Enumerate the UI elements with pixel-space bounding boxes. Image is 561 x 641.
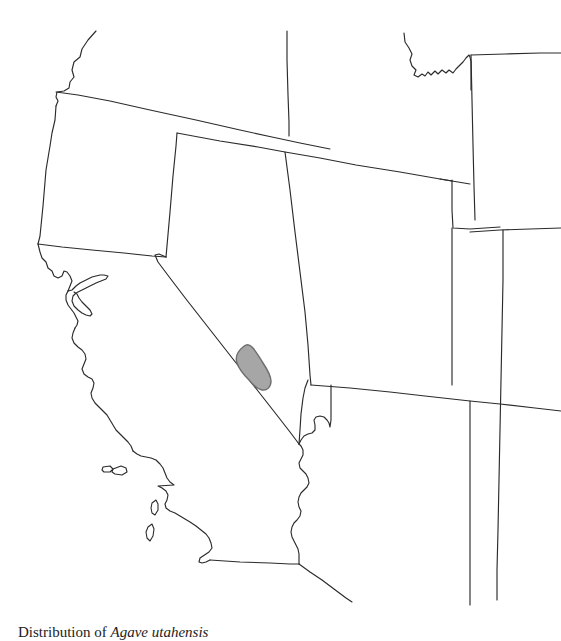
- nevada-california-border: [155, 254, 299, 444]
- caption-species-name: Agave utahensis: [111, 624, 209, 640]
- wyoming-border: [471, 53, 561, 55]
- us-mexico-border: [210, 560, 299, 564]
- idaho-nevada-utah-border: [177, 133, 470, 184]
- mexico-border-diagonal: [299, 564, 352, 602]
- california-north-coastline: [38, 244, 72, 291]
- california-south-coastline: [133, 451, 212, 563]
- colorado-newmexico-east-border: [497, 230, 503, 600]
- utah-nevada-border: [285, 152, 311, 385]
- arizona-colorado-river-border: [291, 444, 309, 564]
- sf-bay-inlet: [66, 291, 78, 328]
- washington-idaho-border: [287, 31, 289, 136]
- figure-caption: Distribution of Agave utahensis: [18, 623, 548, 641]
- wyoming-western-border: [471, 55, 475, 220]
- utah-northeast-corner: [440, 179, 452, 181]
- san-francisco-bay: [68, 275, 108, 316]
- utah-arizona-border: [311, 385, 561, 411]
- caption-prefix: Distribution of: [18, 624, 111, 640]
- island-san-clemente: [146, 524, 154, 541]
- species-range-polygon: [236, 345, 271, 390]
- utah-wyoming-notch: [452, 180, 500, 229]
- island-santa-catalina: [151, 500, 158, 515]
- oregon-nevada-border: [166, 133, 177, 257]
- oregon-coastline: [38, 106, 56, 244]
- oregon-california-border: [38, 244, 166, 257]
- california-central-coastline: [72, 328, 133, 451]
- idaho-montana-border: [404, 33, 471, 90]
- island-santa-rosa: [112, 466, 127, 475]
- island-san-miguel: [102, 466, 113, 472]
